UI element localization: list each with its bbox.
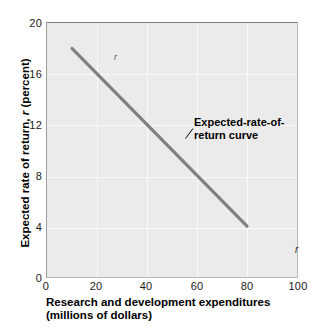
curve-label: Expected-rate-of- return curve [194,116,284,141]
y-tick-label-12: 12 [29,119,42,131]
curve-label-leader-line [185,128,194,139]
x-axis-title-line2: (millions of dollars) [46,309,308,322]
y-axis-title-suffix: (percent) [19,58,31,110]
expected-rate-of-return-curve [47,23,297,277]
y-axis-title-prefix: Expected rate of return, [19,115,31,247]
x-tick-label-20: 20 [90,280,103,292]
x-tick-label-0: 0 [43,280,49,292]
y-axis-title: Expected rate of return, r (percent) [19,25,31,281]
x-tick-label-80: 80 [241,280,254,292]
y-tick-label-8: 8 [36,170,42,182]
x-tick-label-60: 60 [191,280,204,292]
curve-bottom-endpoint-label: r [295,244,298,255]
y-tick-label-16: 16 [29,68,42,80]
curve-label-line2: return curve [194,129,284,142]
x-axis-title: Research and development expenditures (m… [46,296,308,322]
y-tick-label-4: 4 [36,221,42,233]
y-axis-title-symbol: r [19,111,31,115]
x-tick-label-100: 100 [289,280,308,292]
curve-top-endpoint-label: r [114,52,117,62]
x-axis-title-line1: Research and development expenditures [46,296,270,308]
plot-area: Expected-rate-of- return curve r r [46,22,298,278]
y-tick-label-20: 20 [29,17,42,29]
y-tick-label-0: 0 [36,272,42,284]
x-tick-label-40: 40 [140,280,153,292]
expected-rate-of-return-chart: Expected-rate-of- return curve r r 0 20 … [0,0,321,329]
curve-label-line1: Expected-rate-of- [194,116,284,128]
